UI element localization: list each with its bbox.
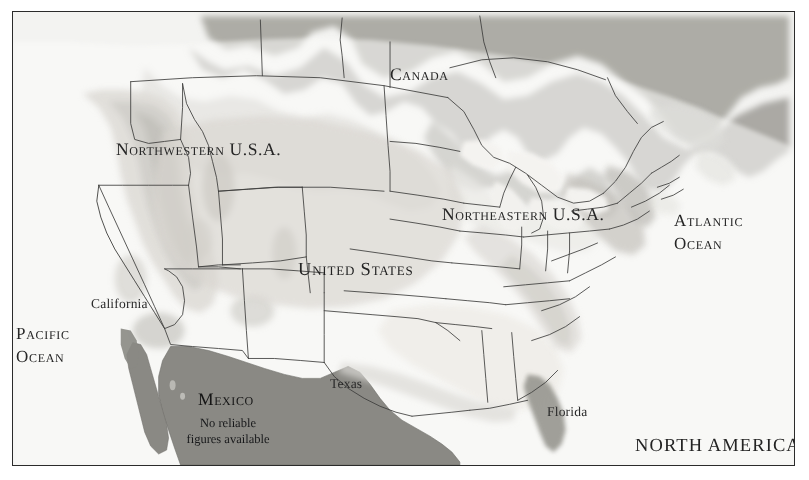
map-canvas [13, 12, 794, 465]
map-frame: Canada Northwestern U.S.A. Northeastern … [12, 11, 795, 466]
map-figure: Canada Northwestern U.S.A. Northeastern … [0, 0, 809, 480]
